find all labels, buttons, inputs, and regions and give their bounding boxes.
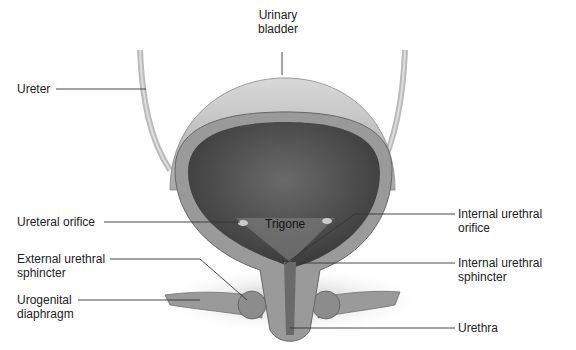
ureteral-orifice-left <box>238 220 248 226</box>
ureter-left <box>140 50 170 170</box>
bladder-illustration <box>0 0 576 350</box>
bladder-diagram: Urinary bladder Ureter Ureteral orifice … <box>0 0 576 350</box>
label-urethra: Urethra <box>458 321 498 335</box>
label-trigone: Trigone <box>265 217 305 231</box>
label-ureteral-orifice: Ureteral orifice <box>17 215 95 229</box>
label-urinary-bladder: Urinary bladder <box>258 8 298 36</box>
label-urogenital-diaphragm: Urogenital diaphragm <box>17 293 74 321</box>
label-internal-urethral-sphincter: Internal urethral sphincter <box>458 256 542 284</box>
urethra-canal <box>284 262 296 335</box>
label-internal-urethral-orifice: Internal urethral orifice <box>458 207 542 235</box>
ureteral-orifice-right <box>322 218 332 224</box>
label-ureter: Ureter <box>17 82 50 96</box>
label-external-urethral-sphincter: External urethral sphincter <box>17 252 105 280</box>
